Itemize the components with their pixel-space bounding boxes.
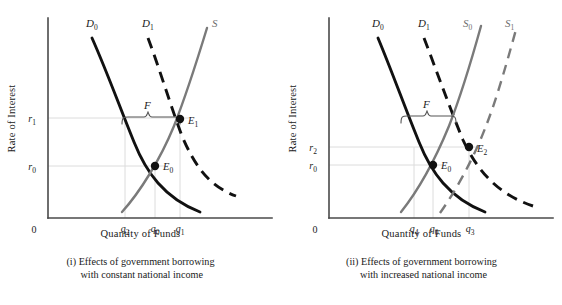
caption-ii: (ii) Effects of government borrowing wit…: [281, 256, 562, 281]
caption-line1-ii: Effects of government borrowing: [361, 256, 497, 267]
y-axis-title-ii: Rate of Interest: [287, 59, 298, 179]
caption-line2-i: with constant national income: [80, 269, 203, 280]
label-curve-s-i: S: [212, 17, 218, 29]
point-e2-ii: [465, 143, 473, 151]
label-curve-d1-i: D1: [141, 17, 154, 32]
caption-marker-ii: (ii): [346, 256, 358, 267]
ytick-r2-ii: r2: [309, 142, 317, 156]
label-curve-d0-ii: D0: [371, 17, 384, 32]
panel-ii: D0 D1 S0 S1 E2 E0 F r2 r0 q4 q0 q3 0 Rat…: [281, 0, 562, 305]
label-curve-s0-ii: S0: [463, 17, 473, 32]
label-point-e1-i: E1: [187, 115, 198, 129]
axes-ii: [329, 18, 553, 218]
x-axis-title-ii: Quantity of Funds: [281, 228, 562, 239]
label-brace-f-i: F: [143, 99, 151, 111]
ytick-r0-ii: r0: [309, 160, 317, 174]
panel-i: D0 D1 S E1 E0 F r1 r0 q2 q0 q1 0 Rate of…: [0, 0, 281, 305]
label-point-e0-i: E0: [162, 161, 173, 175]
label-brace-f-ii: F: [422, 98, 430, 110]
figure-root: D0 D1 S E1 E0 F r1 r0 q2 q0 q1 0 Rate of…: [0, 0, 562, 305]
ytick-r1-i: r1: [28, 113, 36, 127]
caption-i: (i) Effects of government borrowing with…: [0, 256, 281, 281]
plot-i: D0 D1 S E1 E0 F r1 r0 q2 q0 q1 0: [0, 0, 281, 250]
y-axis-title-i: Rate of Interest: [6, 59, 17, 179]
label-point-e2-ii: E2: [476, 143, 487, 157]
point-e0-ii: [429, 161, 437, 169]
x-axis-title-i: Quantity of Funds: [0, 228, 281, 239]
label-curve-d1-ii: D1: [417, 17, 430, 32]
label-curve-s1-ii: S1: [505, 17, 515, 32]
point-e1-i: [176, 115, 184, 123]
curve-d0-i: [92, 38, 200, 212]
caption-line2-ii: with increased national income: [360, 269, 487, 280]
point-e0-i: [151, 162, 159, 170]
caption-marker-i: (i): [66, 256, 76, 267]
plot-ii: D0 D1 S0 S1 E2 E0 F r2 r0 q4 q0 q3 0: [281, 0, 562, 250]
ytick-r0-i: r0: [28, 161, 36, 175]
caption-line1-i: Effects of government borrowing: [79, 256, 215, 267]
label-point-e0-ii: E0: [440, 160, 451, 174]
label-curve-d0-i: D0: [85, 17, 98, 32]
